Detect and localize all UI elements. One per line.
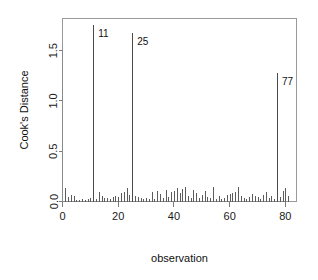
outlier-label-25: 25 (137, 36, 149, 47)
y-tick-label: 1.5 (48, 43, 60, 58)
chart-canvas: 0.00.51.01.5020406080112577observationCo… (0, 0, 318, 280)
x-tick-label: 60 (224, 210, 236, 222)
plot-frame (63, 19, 297, 202)
x-axis-title: observation (151, 252, 208, 264)
y-axis-title: Cook's Distance (18, 70, 30, 149)
y-tick-label: 1.0 (48, 93, 60, 108)
y-tick-label: 0.5 (48, 144, 60, 159)
cooks-distance-plot: 0.00.51.01.5020406080112577observationCo… (0, 0, 318, 280)
x-tick-label: 40 (168, 210, 180, 222)
x-tick-label: 80 (279, 210, 291, 222)
x-tick-label: 20 (112, 210, 124, 222)
y-tick-label: 0.0 (48, 194, 60, 209)
outlier-label-11: 11 (98, 28, 109, 39)
outlier-label-77: 77 (282, 76, 294, 87)
x-tick-label: 0 (59, 210, 65, 222)
